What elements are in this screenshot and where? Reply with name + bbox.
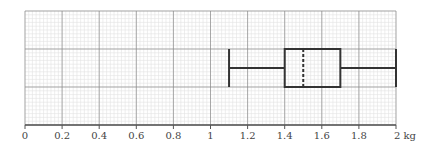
tick-label: 0.8: [165, 130, 181, 141]
tick-label: 0.4: [91, 130, 107, 141]
tick-label: 1.8: [351, 130, 367, 141]
tick-label: 1.2: [240, 130, 256, 141]
tick-label: 0: [22, 130, 28, 141]
x-axis-tick-labels: 00.20.40.60.811.21.41.61.82 kg: [22, 130, 417, 141]
tick-label: 2 kg: [394, 130, 417, 141]
tick-label: 0.6: [128, 130, 144, 141]
tick-label: 1.6: [314, 130, 330, 141]
tick-label: 0.2: [54, 130, 70, 141]
tick-label: 1: [207, 130, 213, 141]
tick-label: 1.4: [277, 130, 293, 141]
x-axis: [25, 125, 396, 129]
box-plot-chart: 00.20.40.60.811.21.41.61.82 kg: [0, 0, 426, 151]
